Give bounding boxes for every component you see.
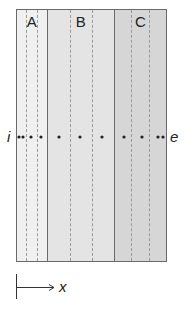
x-axis-arrow <box>0 0 187 311</box>
x-axis-label: x <box>59 278 67 295</box>
